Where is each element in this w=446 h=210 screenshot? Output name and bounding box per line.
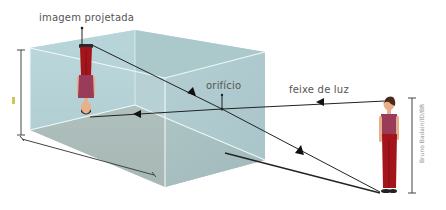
- light-beam-label: feixe de luz: [289, 84, 349, 95]
- projected-image-label: imagem projetada: [39, 12, 134, 23]
- image-credit: Bruno Badain/ID/BR: [418, 104, 425, 163]
- diagram-canvas: [0, 0, 446, 210]
- pinhole-camera-diagram: imagem projetada orifício feixe de luz B…: [0, 0, 446, 210]
- small-marker: [12, 97, 15, 104]
- object-height-dimension: [408, 98, 416, 193]
- left-height-dimension: [17, 50, 25, 135]
- pinhole-label: orifício: [206, 80, 241, 91]
- person-object: [379, 97, 399, 193]
